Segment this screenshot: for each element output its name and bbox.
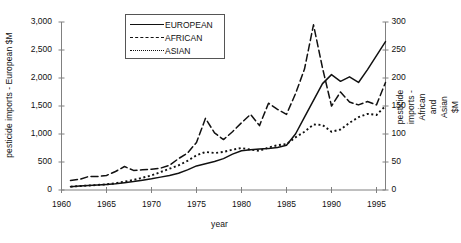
- x-tick-label: 1975: [177, 199, 217, 209]
- y-tick-label-right: 150: [392, 100, 432, 110]
- y-tick-label-right: 100: [392, 128, 432, 138]
- chart-legend: EUROPEAN AFRICAN ASIAN: [125, 14, 225, 59]
- y-tick-label-left: 3,000: [8, 16, 52, 26]
- y-tick-label-right: 300: [392, 16, 432, 26]
- legend-item-asian: ASIAN: [130, 44, 220, 57]
- x-tick-label: 1960: [42, 199, 82, 209]
- legend-label-african: AFRICAN: [164, 33, 202, 43]
- series-line-european: [71, 42, 386, 187]
- legend-item-african: AFRICAN: [130, 31, 220, 44]
- x-tick-label: 1970: [132, 199, 172, 209]
- y-tick-label-right: 0: [392, 184, 432, 194]
- x-tick-label: 1995: [357, 199, 397, 209]
- dashed-line-key-icon: [130, 32, 164, 44]
- x-tick-label: 1990: [312, 199, 352, 209]
- solid-line-key-icon: [130, 19, 164, 31]
- y-tick-label-left: 1,000: [8, 128, 52, 138]
- x-tick-label: 1965: [87, 199, 127, 209]
- legend-label-european: EUROPEAN: [164, 20, 213, 30]
- y-tick-label-left: 1,500: [8, 100, 52, 110]
- y-tick-label-right: 250: [392, 44, 432, 54]
- y-tick-label-left: 2,500: [8, 44, 52, 54]
- y-tick-label-left: 500: [8, 156, 52, 166]
- y-tick-label-right: 200: [392, 72, 432, 82]
- legend-item-european: EUROPEAN: [130, 18, 220, 31]
- y-tick-label-left: 0: [8, 184, 52, 194]
- y-tick-label-right: 50: [392, 156, 432, 166]
- dotted-line-key-icon: [130, 45, 164, 57]
- y-tick-label-left: 2,000: [8, 72, 52, 82]
- series-line-asian: [71, 106, 386, 187]
- x-tick-label: 1985: [267, 199, 307, 209]
- x-tick-label: 1980: [222, 199, 262, 209]
- legend-label-asian: ASIAN: [164, 46, 191, 56]
